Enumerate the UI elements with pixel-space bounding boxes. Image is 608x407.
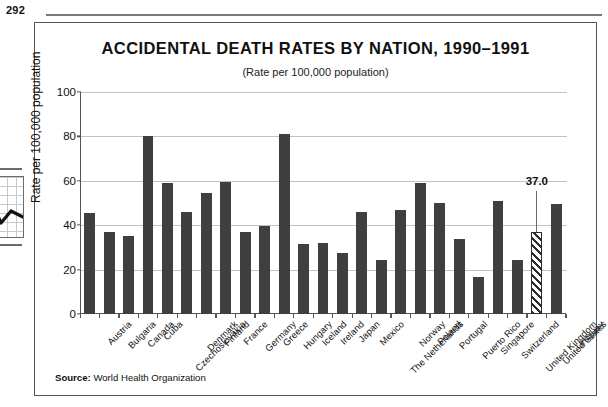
bar-united-kingdom[interactable] — [512, 260, 523, 314]
x-tick-mark — [80, 314, 81, 318]
x-tick-mark — [410, 314, 411, 318]
bar-canada[interactable] — [123, 236, 134, 314]
bar-denmark[interactable] — [181, 212, 192, 314]
x-tick-mark — [274, 314, 275, 318]
x-tick-mark — [449, 314, 450, 318]
x-tick-mark — [488, 314, 489, 318]
x-tick-mark — [352, 314, 353, 318]
bar-japan[interactable] — [337, 253, 348, 314]
plot-wrapper: Rate per 100,000 population 020406080100… — [35, 23, 598, 397]
bar-bulgaria[interactable] — [104, 232, 115, 314]
x-label-mexico: Mexico — [378, 319, 406, 347]
y-tick-label: 20 — [63, 264, 76, 276]
bar-the-netherlands[interactable] — [376, 260, 387, 314]
x-tick-mark — [332, 314, 333, 318]
x-tick-mark — [293, 314, 294, 318]
bar-puerto-rico[interactable] — [454, 239, 465, 314]
source-label: Source: — [55, 372, 91, 383]
y-tick-label: 100 — [57, 86, 76, 98]
bar-greece[interactable] — [259, 226, 270, 314]
x-tick-mark — [546, 314, 547, 318]
bar-switzerland[interactable] — [493, 201, 504, 314]
x-tick-mark — [215, 314, 216, 318]
margin-rule-bottom — [0, 244, 22, 246]
x-tick-mark — [177, 314, 178, 318]
bar-france[interactable] — [220, 182, 231, 314]
bar-uruguay[interactable] — [551, 204, 562, 314]
x-tick-mark — [313, 314, 314, 318]
x-tick-mark — [138, 314, 139, 318]
bar-hungary[interactable] — [279, 134, 290, 314]
bar-czechoslovakia[interactable] — [162, 183, 173, 314]
bar-series — [80, 92, 566, 314]
bar-germany[interactable] — [240, 232, 251, 314]
x-tick-mark — [254, 314, 255, 318]
x-tick-mark — [565, 314, 566, 318]
x-tick-mark — [196, 314, 197, 318]
y-axis-title: Rate per 100,000 population — [29, 52, 43, 203]
x-tick-mark — [468, 314, 469, 318]
bar-cuba[interactable] — [143, 136, 154, 314]
bar-ireland[interactable] — [318, 243, 329, 314]
x-tick-mark — [118, 314, 119, 318]
margin-decorative-linechart-icon — [0, 176, 24, 238]
header-rule — [46, 14, 602, 16]
y-tick-label: 80 — [63, 130, 76, 142]
y-tick-label: 0 — [70, 308, 76, 320]
source-note: Source: World Health Organization — [55, 372, 206, 383]
figure-frame: ACCIDENTAL DEATH RATES BY NATION, 1990–1… — [34, 22, 597, 396]
bar-austria[interactable] — [84, 213, 95, 314]
bar-finland[interactable] — [201, 193, 212, 314]
bar-singapore[interactable] — [473, 277, 484, 314]
x-tick-mark — [235, 314, 236, 318]
bar-poland[interactable] — [415, 183, 426, 314]
x-tick-mark — [507, 314, 508, 318]
callout-leader-line — [536, 191, 537, 232]
margin-rule-top — [0, 168, 22, 170]
bar-iceland[interactable] — [298, 244, 309, 314]
bar-norway[interactable] — [395, 210, 406, 314]
bar-portugal[interactable] — [434, 203, 445, 314]
x-tick-mark — [157, 314, 158, 318]
x-tick-mark — [371, 314, 372, 318]
x-tick-mark — [429, 314, 430, 318]
y-tick-label: 60 — [63, 175, 76, 187]
bar-mexico[interactable] — [356, 212, 367, 314]
x-tick-mark — [99, 314, 100, 318]
y-tick-label: 40 — [63, 219, 76, 231]
x-tick-mark — [526, 314, 527, 318]
callout-value-label: 37.0 — [526, 175, 548, 187]
bar-united-states[interactable] — [531, 232, 542, 314]
page-number: 292 — [6, 4, 25, 16]
x-tick-mark — [390, 314, 391, 318]
source-text: World Health Organization — [93, 372, 205, 383]
